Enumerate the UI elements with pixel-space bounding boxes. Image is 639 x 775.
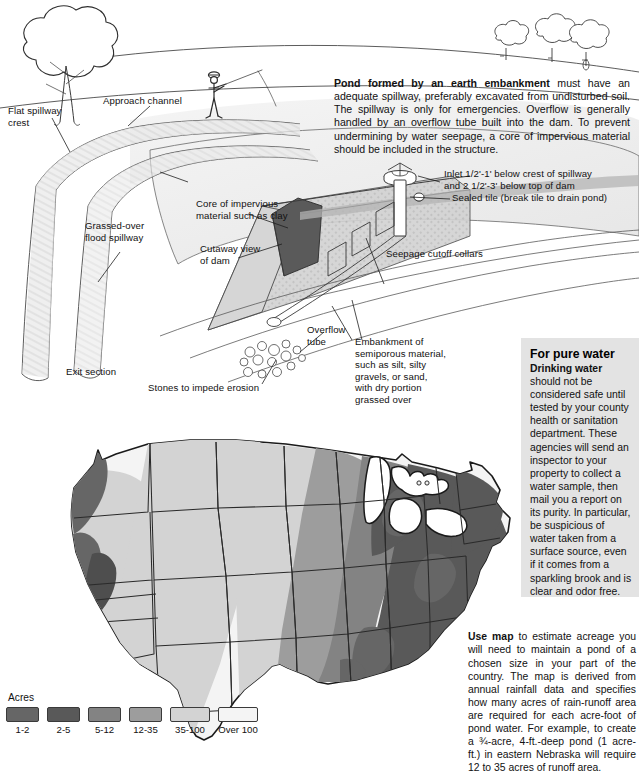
callout-overflow-tube: Overflow tube — [307, 324, 346, 347]
callout-exit-section: Exit section — [66, 366, 116, 378]
pure-water-body: Drinking water should not be considered … — [530, 362, 632, 598]
legend-item-35-100: 35-100 — [170, 707, 210, 736]
legend-swatch-5-12 — [88, 707, 121, 722]
legend-title: Acres — [6, 692, 236, 704]
callout-approach-channel: Approach channel — [103, 95, 182, 107]
callout-grassed-over-flood-spillway: Grassed-over flood spillway — [85, 220, 144, 243]
legend-label-2-5: 2-5 — [57, 724, 71, 736]
intro-lead: Pond formed by an earth embankment — [334, 77, 550, 89]
callout-seepage-cutoff-collars: Seepage cutoff collars — [386, 248, 483, 260]
map-legend: Acres 1-2 2-5 5-12 12-35 35-100 — [6, 692, 236, 736]
intro-paragraph: Pond formed by an earth embankment must … — [334, 77, 630, 157]
legend-swatch-1-2 — [6, 707, 39, 722]
callout-sealed-tile: Sealed tile (break tile to drain pond) — [452, 192, 607, 204]
legend-item-over-100: Over 100 — [218, 707, 258, 736]
callout-embankment-of-semiporous-material: Embankment of semiporous material, such … — [355, 336, 446, 406]
legend-label-5-12: 5-12 — [95, 724, 114, 736]
legend-label-1-2: 1-2 — [16, 724, 30, 736]
legend-swatch-35-100 — [170, 707, 210, 722]
pure-water-title: For pure water — [530, 347, 632, 361]
callout-core-of-impervious-material: Core of impervious material such as clay — [196, 198, 288, 221]
pure-water-lead: Drinking water — [530, 363, 602, 374]
callout-flat-spillway-crest: Flat spillway crest — [8, 105, 62, 128]
legend-swatch-row: 1-2 2-5 5-12 12-35 35-100 Over 100 — [6, 707, 236, 736]
legend-swatch-12-35 — [129, 707, 162, 722]
callout-cutaway-view-of-dam: Cutaway view of dam — [200, 243, 260, 266]
legend-swatch-over-100 — [218, 707, 258, 722]
legend-swatch-2-5 — [47, 707, 80, 722]
legend-label-35-100: 35-100 — [175, 724, 205, 736]
for-pure-water-sidebar: For pure water Drinking water should not… — [521, 338, 639, 597]
callout-stones-to-impede-erosion: Stones to impede erosion — [148, 382, 259, 394]
legend-item-2-5: 2-5 — [47, 707, 80, 736]
callout-inlet-depth: Inlet 1/2'-1' below crest of spillway an… — [444, 168, 592, 191]
legend-label-12-35: 12-35 — [133, 724, 158, 736]
legend-label-over-100: Over 100 — [218, 724, 257, 736]
legend-item-5-12: 5-12 — [88, 707, 121, 736]
pure-water-text: should not be considered safe until test… — [530, 376, 631, 597]
legend-item-12-35: 12-35 — [129, 707, 162, 736]
legend-item-1-2: 1-2 — [6, 707, 39, 736]
